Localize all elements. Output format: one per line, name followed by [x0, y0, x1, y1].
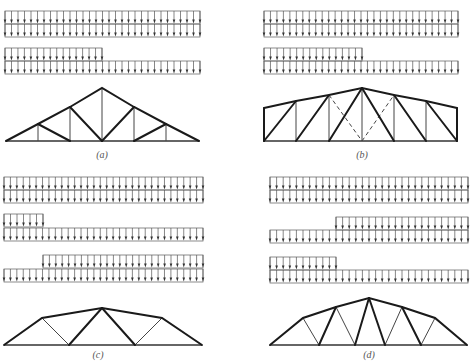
down-arrow-icon — [269, 199, 272, 203]
web-member-light — [385, 307, 402, 345]
down-arrow-icon — [86, 199, 89, 203]
down-arrow-icon — [411, 70, 414, 74]
down-arrow-icon — [105, 278, 108, 282]
down-arrow-icon — [334, 33, 337, 37]
down-arrow-icon — [17, 70, 20, 74]
down-arrow-icon — [43, 57, 46, 61]
web-member-heavy — [394, 95, 426, 141]
down-arrow-icon — [138, 278, 141, 282]
down-arrow-icon — [368, 279, 371, 283]
down-arrow-icon — [282, 20, 285, 24]
down-arrow-icon — [17, 33, 20, 37]
down-arrow-icon — [74, 264, 77, 268]
down-arrow-icon — [105, 237, 108, 241]
down-arrow-icon — [69, 70, 72, 74]
down-arrow-icon — [386, 33, 389, 37]
down-arrow-icon — [447, 186, 450, 190]
down-arrow-icon — [361, 186, 364, 190]
load-row-outline — [43, 255, 203, 268]
down-arrow-icon — [454, 199, 457, 203]
down-arrow-icon — [335, 199, 338, 203]
down-arrow-icon — [69, 33, 72, 37]
down-arrow-icon — [195, 237, 198, 241]
down-arrow-icon — [80, 186, 83, 190]
down-arrow-icon — [373, 20, 376, 24]
load-row — [269, 177, 470, 190]
down-arrow-icon — [366, 20, 369, 24]
down-arrow-icon — [125, 278, 128, 282]
down-arrow-icon — [93, 264, 96, 268]
down-arrow-icon — [263, 33, 266, 37]
web-member-heavy — [369, 298, 385, 345]
down-arrow-icon — [289, 279, 292, 283]
load-pattern — [3, 255, 205, 282]
down-arrow-icon — [431, 33, 434, 37]
down-arrow-icon — [3, 237, 6, 241]
down-arrow-icon — [361, 239, 364, 243]
down-arrow-icon — [386, 70, 389, 74]
down-arrow-icon — [275, 199, 278, 203]
load-row — [269, 230, 470, 243]
down-arrow-icon — [302, 199, 305, 203]
down-arrow-icon — [16, 186, 19, 190]
down-arrow-icon — [140, 20, 143, 24]
down-arrow-icon — [269, 57, 272, 61]
down-arrow-icon — [308, 186, 311, 190]
down-arrow-icon — [328, 199, 331, 203]
down-arrow-icon — [321, 33, 324, 37]
down-arrow-icon — [43, 70, 46, 74]
down-arrow-icon — [282, 266, 285, 270]
down-arrow-icon — [99, 264, 102, 268]
truss-diagram — [0, 0, 474, 362]
load-pattern — [269, 217, 470, 243]
down-arrow-icon — [454, 226, 457, 230]
down-arrow-icon — [269, 186, 272, 190]
down-arrow-icon — [388, 239, 391, 243]
down-arrow-icon — [467, 279, 470, 283]
down-arrow-icon — [302, 20, 305, 24]
down-arrow-icon — [93, 186, 96, 190]
down-arrow-icon — [421, 226, 424, 230]
down-arrow-icon — [30, 33, 33, 37]
down-arrow-icon — [62, 70, 65, 74]
down-arrow-icon — [48, 237, 51, 241]
down-arrow-icon — [189, 186, 192, 190]
down-arrow-icon — [30, 20, 33, 24]
load-row — [3, 269, 205, 282]
down-arrow-icon — [125, 199, 128, 203]
panel-a — [4, 11, 202, 141]
down-arrow-icon — [379, 20, 382, 24]
down-arrow-icon — [314, 20, 317, 24]
load-pattern — [4, 48, 202, 74]
down-arrow-icon — [467, 199, 470, 203]
down-arrow-icon — [62, 57, 65, 61]
down-arrow-icon — [131, 237, 134, 241]
down-arrow-icon — [394, 226, 397, 230]
down-arrow-icon — [199, 70, 202, 74]
down-arrow-icon — [153, 33, 156, 37]
down-arrow-icon — [374, 239, 377, 243]
down-arrow-icon — [366, 70, 369, 74]
down-arrow-icon — [49, 70, 52, 74]
down-arrow-icon — [414, 186, 417, 190]
down-arrow-icon — [112, 186, 115, 190]
down-arrow-icon — [335, 239, 338, 243]
down-arrow-icon — [269, 266, 272, 270]
down-arrow-icon — [127, 33, 130, 37]
load-row — [269, 270, 470, 283]
down-arrow-icon — [405, 33, 408, 37]
down-arrow-icon — [82, 33, 85, 37]
down-arrow-icon — [199, 33, 202, 37]
down-arrow-icon — [56, 33, 59, 37]
down-arrow-icon — [170, 264, 173, 268]
down-arrow-icon — [16, 278, 19, 282]
down-arrow-icon — [289, 33, 292, 37]
down-arrow-icon — [73, 199, 76, 203]
down-arrow-icon — [418, 70, 421, 74]
down-arrow-icon — [9, 223, 12, 227]
down-arrow-icon — [334, 20, 337, 24]
load-pattern — [3, 214, 205, 241]
down-arrow-icon — [335, 279, 338, 283]
down-arrow-icon — [134, 20, 137, 24]
down-arrow-icon — [3, 199, 6, 203]
